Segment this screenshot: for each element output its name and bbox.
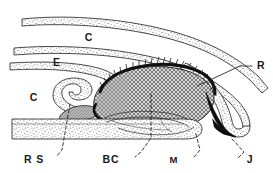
label-c-upper: C — [85, 31, 93, 43]
label-m: M — [170, 154, 179, 165]
label-j: J — [247, 153, 254, 165]
label-r: R — [257, 59, 265, 71]
label-bc: BC — [103, 153, 120, 165]
label-rs: R S — [24, 153, 44, 165]
label-e: E — [53, 56, 61, 68]
anatomical-diagram: C E C R R S BC M J — [0, 0, 273, 173]
figure-container: C E C R R S BC M J — [0, 0, 273, 173]
label-c-lower: C — [30, 91, 38, 103]
